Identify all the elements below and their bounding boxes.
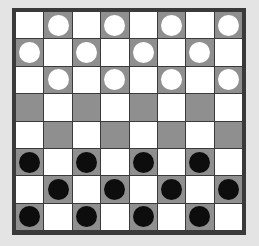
board-square-r6-c4[interactable] xyxy=(130,176,157,202)
board-square-r2-c5[interactable] xyxy=(158,67,185,93)
white-checker-piece[interactable] xyxy=(161,69,182,90)
white-checker-piece[interactable] xyxy=(76,42,97,63)
white-checker-piece[interactable] xyxy=(161,15,182,36)
board-square-r4-c7[interactable] xyxy=(215,122,242,148)
board-square-r4-c2[interactable] xyxy=(73,122,100,148)
board-square-r2-c1[interactable] xyxy=(44,67,71,93)
black-checker-piece[interactable] xyxy=(76,152,97,173)
board-square-r5-c6[interactable] xyxy=(186,149,213,175)
board-square-r1-c7[interactable] xyxy=(215,39,242,65)
board-square-r7-c6[interactable] xyxy=(186,204,213,230)
board-square-r4-c5[interactable] xyxy=(158,122,185,148)
board-square-r5-c1[interactable] xyxy=(44,149,71,175)
black-checker-piece[interactable] xyxy=(133,206,154,227)
board-square-r2-c0[interactable] xyxy=(16,67,43,93)
board-square-r2-c6[interactable] xyxy=(186,67,213,93)
board-square-r3-c4[interactable] xyxy=(130,94,157,120)
board-square-r7-c4[interactable] xyxy=(130,204,157,230)
white-checker-piece[interactable] xyxy=(133,42,154,63)
board-square-r5-c2[interactable] xyxy=(73,149,100,175)
board-square-r4-c0[interactable] xyxy=(16,122,43,148)
board-square-r0-c0[interactable] xyxy=(16,12,43,38)
black-checker-piece[interactable] xyxy=(133,152,154,173)
board-square-r2-c3[interactable] xyxy=(101,67,128,93)
board-square-r0-c3[interactable] xyxy=(101,12,128,38)
board-square-r1-c2[interactable] xyxy=(73,39,100,65)
board-square-r3-c6[interactable] xyxy=(186,94,213,120)
board-square-r0-c7[interactable] xyxy=(215,12,242,38)
board-square-r0-c4[interactable] xyxy=(130,12,157,38)
black-checker-piece[interactable] xyxy=(19,206,40,227)
board-square-r1-c3[interactable] xyxy=(101,39,128,65)
board-square-r6-c2[interactable] xyxy=(73,176,100,202)
board-square-r0-c1[interactable] xyxy=(44,12,71,38)
board-square-r1-c6[interactable] xyxy=(186,39,213,65)
board-square-r7-c3[interactable] xyxy=(101,204,128,230)
board-square-r5-c3[interactable] xyxy=(101,149,128,175)
board-square-r6-c6[interactable] xyxy=(186,176,213,202)
board-square-r1-c1[interactable] xyxy=(44,39,71,65)
board-square-r3-c1[interactable] xyxy=(44,94,71,120)
board-square-r5-c0[interactable] xyxy=(16,149,43,175)
white-checker-piece[interactable] xyxy=(48,69,69,90)
white-checker-piece[interactable] xyxy=(189,42,210,63)
board-square-r4-c3[interactable] xyxy=(101,122,128,148)
board-square-r4-c4[interactable] xyxy=(130,122,157,148)
board-square-r7-c5[interactable] xyxy=(158,204,185,230)
white-checker-piece[interactable] xyxy=(48,15,69,36)
board-square-r7-c7[interactable] xyxy=(215,204,242,230)
white-checker-piece[interactable] xyxy=(104,69,125,90)
board-square-r5-c5[interactable] xyxy=(158,149,185,175)
board-square-r3-c2[interactable] xyxy=(73,94,100,120)
board-square-r6-c7[interactable] xyxy=(215,176,242,202)
board-square-r6-c0[interactable] xyxy=(16,176,43,202)
white-checker-piece[interactable] xyxy=(104,15,125,36)
board-square-r7-c0[interactable] xyxy=(16,204,43,230)
board-square-r5-c4[interactable] xyxy=(130,149,157,175)
board-square-r6-c1[interactable] xyxy=(44,176,71,202)
black-checker-piece[interactable] xyxy=(189,206,210,227)
board-square-r3-c5[interactable] xyxy=(158,94,185,120)
checkers-board xyxy=(16,12,242,230)
black-checker-piece[interactable] xyxy=(19,152,40,173)
black-checker-piece[interactable] xyxy=(189,152,210,173)
white-checker-piece[interactable] xyxy=(19,42,40,63)
board-square-r6-c5[interactable] xyxy=(158,176,185,202)
board-square-r3-c7[interactable] xyxy=(215,94,242,120)
black-checker-piece[interactable] xyxy=(48,179,69,200)
board-square-r7-c2[interactable] xyxy=(73,204,100,230)
board-square-r0-c5[interactable] xyxy=(158,12,185,38)
board-square-r4-c1[interactable] xyxy=(44,122,71,148)
board-square-r6-c3[interactable] xyxy=(101,176,128,202)
black-checker-piece[interactable] xyxy=(104,179,125,200)
board-square-r4-c6[interactable] xyxy=(186,122,213,148)
board-square-r3-c3[interactable] xyxy=(101,94,128,120)
board-square-r2-c7[interactable] xyxy=(215,67,242,93)
board-square-r1-c4[interactable] xyxy=(130,39,157,65)
board-frame xyxy=(12,8,246,235)
black-checker-piece[interactable] xyxy=(76,206,97,227)
board-square-r0-c6[interactable] xyxy=(186,12,213,38)
board-square-r2-c2[interactable] xyxy=(73,67,100,93)
board-square-r7-c1[interactable] xyxy=(44,204,71,230)
board-square-r1-c0[interactable] xyxy=(16,39,43,65)
board-square-r0-c2[interactable] xyxy=(73,12,100,38)
board-square-r1-c5[interactable] xyxy=(158,39,185,65)
white-checker-piece[interactable] xyxy=(218,15,239,36)
board-square-r5-c7[interactable] xyxy=(215,149,242,175)
board-square-r2-c4[interactable] xyxy=(130,67,157,93)
white-checker-piece[interactable] xyxy=(218,69,239,90)
page xyxy=(0,0,259,246)
black-checker-piece[interactable] xyxy=(218,179,239,200)
black-checker-piece[interactable] xyxy=(161,179,182,200)
board-square-r3-c0[interactable] xyxy=(16,94,43,120)
